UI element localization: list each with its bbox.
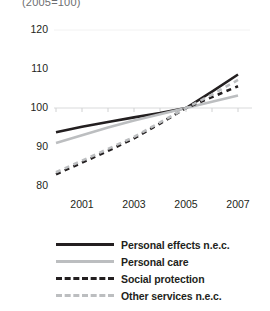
plot-area <box>0 0 270 215</box>
legend-label-1: Personal care <box>121 256 189 268</box>
legend-label-3: Other services n.e.c. <box>121 290 222 302</box>
legend-swatch-icon-2 <box>56 273 114 285</box>
legend-line-2 <box>56 277 114 280</box>
legend-item-1[interactable]: Personal care <box>56 253 270 270</box>
legend-swatch-icon-0 <box>56 239 114 251</box>
legend-line-0 <box>56 243 114 246</box>
legend-line-1 <box>56 260 114 263</box>
legend-swatch-icon-1 <box>56 256 114 268</box>
legend-item-2[interactable]: Social protection <box>56 270 270 287</box>
legend-label-0: Personal effects n.e.c. <box>121 239 230 251</box>
series-line-1 <box>56 96 238 144</box>
legend-swatch-icon-3 <box>56 290 114 302</box>
legend-item-0[interactable]: Personal effects n.e.c. <box>56 236 270 253</box>
index-line-chart: (2005=100) 8090100110120 200120032005200… <box>0 0 270 311</box>
legend-line-3 <box>56 294 114 297</box>
chart-legend: Personal effects n.e.c.Personal careSoci… <box>56 236 270 304</box>
legend-item-3[interactable]: Other services n.e.c. <box>56 287 270 304</box>
legend-label-2: Social protection <box>121 273 204 285</box>
